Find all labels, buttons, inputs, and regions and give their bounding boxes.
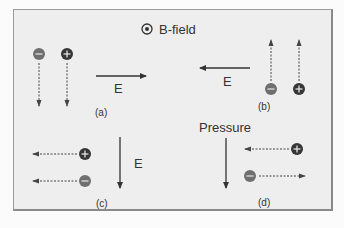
e-field-label: E — [134, 156, 143, 171]
b-field-label: B-field — [159, 22, 196, 37]
e-field-label: E — [223, 74, 232, 89]
negative-charge — [79, 175, 91, 187]
drift-diagram: B-field E (a) E (b) — [0, 0, 344, 228]
positive-charge — [61, 48, 73, 60]
positive-charge — [293, 83, 305, 95]
panel-label: (a) — [95, 107, 107, 118]
panel-a: E (a) — [33, 48, 146, 118]
pressure-label: Pressure — [199, 120, 251, 135]
b-field-out-of-page-icon — [142, 24, 152, 34]
positive-charge — [291, 143, 303, 155]
panel-label: (b) — [258, 101, 270, 112]
panel-b: E (b) — [200, 40, 305, 112]
panel-label: (c) — [96, 198, 108, 209]
panel-label: (d) — [258, 197, 270, 208]
panel-c: E (c) — [33, 137, 143, 209]
positive-charge — [79, 148, 91, 160]
b-field-legend: B-field — [142, 22, 196, 37]
e-field-label: E — [114, 81, 123, 96]
negative-charge — [33, 48, 45, 60]
negative-charge — [244, 170, 256, 182]
negative-charge — [265, 83, 277, 95]
panel-d: Pressure (d) — [199, 120, 305, 208]
